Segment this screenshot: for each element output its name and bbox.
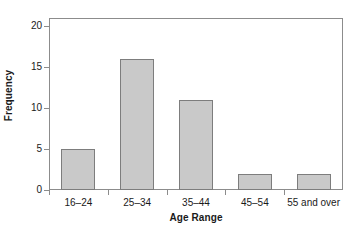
x-axis-tick-mark	[225, 190, 226, 195]
y-axis-title: Frequency	[0, 0, 18, 190]
bars-layer	[49, 18, 343, 190]
y-axis-tick-label: 20	[31, 21, 42, 31]
x-axis-tick-label: 16–24	[64, 197, 92, 209]
x-axis-tick-label: 45–54	[241, 197, 269, 209]
x-axis-tick-mark	[167, 190, 168, 195]
x-axis-title: Age Range	[49, 212, 343, 223]
y-axis-tick-label: 0	[36, 185, 42, 195]
bar-chart: Frequency 05101520 16–2425–3435–4445–545…	[0, 0, 357, 238]
bar	[120, 59, 154, 190]
x-axis-tick-label: 55 and over	[287, 197, 340, 209]
bar	[179, 100, 213, 190]
y-axis-title-text: Frequency	[4, 69, 15, 120]
x-axis-tick-mark	[49, 190, 50, 195]
y-axis-tick-labels: 05101520	[18, 18, 44, 190]
x-axis-tick-label: 25–34	[123, 197, 151, 209]
x-axis-tick-mark	[108, 190, 109, 195]
x-axis-tick-mark	[284, 190, 285, 195]
y-axis-tick-label: 10	[31, 103, 42, 113]
y-axis-tick-label: 15	[31, 62, 42, 72]
y-axis-tick-label: 5	[36, 144, 42, 154]
bar	[238, 174, 272, 190]
bar	[61, 149, 95, 190]
bar	[297, 174, 331, 190]
x-axis-tick-labels: 16–2425–3435–4445–5455 and over	[49, 197, 343, 211]
x-axis-tick-label: 35–44	[182, 197, 210, 209]
